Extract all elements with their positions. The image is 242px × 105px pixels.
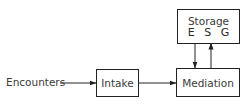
mediation-label: Mediation — [182, 77, 234, 89]
storage-sublabel: E S G — [188, 27, 232, 39]
storage-node: Storage E S G — [177, 9, 240, 44]
encounters-label: Encounters — [6, 76, 65, 88]
intake-label: Intake — [101, 77, 133, 89]
intake-node: Intake — [96, 69, 139, 97]
storage-label: Storage — [188, 15, 229, 27]
mediation-node: Mediation — [176, 68, 240, 97]
